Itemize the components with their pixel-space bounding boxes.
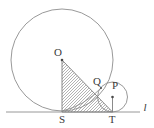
label-line-l: l xyxy=(143,101,146,113)
point-marker-O xyxy=(61,59,64,62)
geometry-figure: O Q P S T l xyxy=(0,0,154,128)
geometry-diagram: O Q P S T l xyxy=(0,0,154,128)
label-point-Q: Q xyxy=(93,75,101,87)
point-marker-P xyxy=(111,96,114,99)
point-marker-Q xyxy=(100,87,102,89)
label-point-O: O xyxy=(54,46,62,58)
label-point-P: P xyxy=(112,79,118,91)
label-point-S: S xyxy=(59,113,65,125)
label-point-T: T xyxy=(109,113,116,125)
